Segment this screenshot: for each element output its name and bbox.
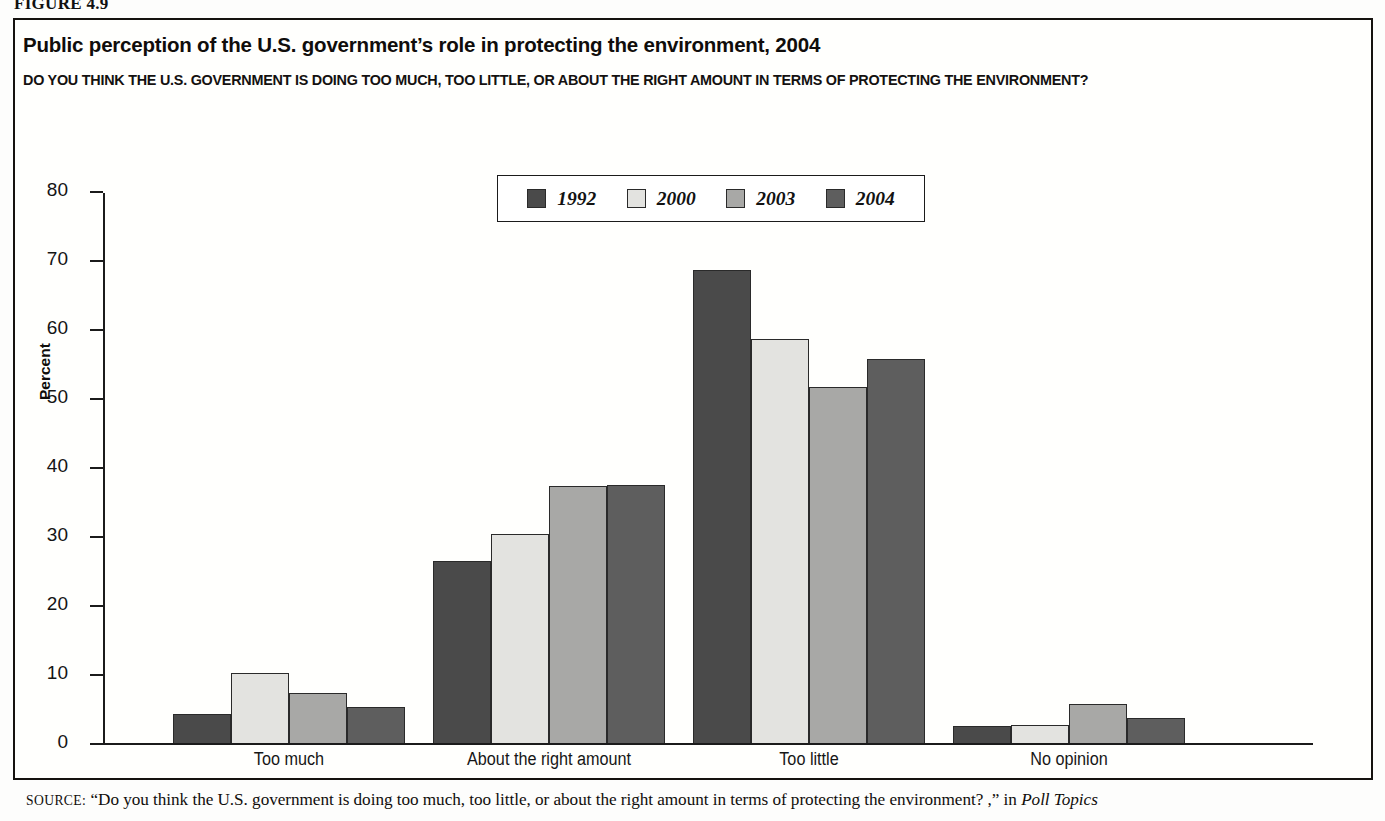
y-tick-label-40: 40	[47, 455, 68, 477]
chart-subtitle: DO YOU THINK THE U.S. GOVERNMENT IS DOIN…	[23, 72, 1088, 88]
bar-2003-no-opinion	[1069, 704, 1127, 743]
bar-1992-about-the-right-amount	[433, 561, 491, 743]
source-label: SOURCE:	[26, 793, 86, 808]
y-tick-0: 0	[90, 743, 103, 745]
legend-label-1992: 1992	[557, 188, 596, 210]
legend-item-2004[interactable]: 2004	[826, 188, 895, 210]
legend-swatch-icon-2003	[726, 189, 745, 208]
legend-label-2004: 2004	[856, 188, 895, 210]
page-title: Public perception of the U.S. government…	[23, 33, 820, 57]
y-tick-label-70: 70	[47, 248, 68, 270]
legend-label-2003: 2003	[756, 188, 795, 210]
y-tick-label-60: 60	[47, 317, 68, 339]
bar-2003-too-much	[289, 693, 347, 743]
legend-swatch-icon-1992	[527, 189, 546, 208]
bar-group	[433, 191, 665, 743]
bar-group	[953, 191, 1185, 743]
bar-2004-about-the-right-amount	[607, 485, 665, 743]
bar-1992-no-opinion	[953, 726, 1011, 743]
y-tick-30: 30	[90, 536, 103, 538]
bar-2000-too-much	[231, 673, 289, 743]
bar-2004-too-much	[347, 707, 405, 743]
bar-2000-about-the-right-amount	[491, 534, 549, 743]
legend-item-1992[interactable]: 1992	[527, 188, 596, 210]
y-tick-40: 40	[90, 467, 103, 469]
legend-swatch-icon-2000	[627, 189, 646, 208]
bar-2003-about-the-right-amount	[549, 486, 607, 743]
plot-area: 01020304050607080 Too muchAbout the righ…	[103, 193, 1313, 745]
bar-1992-too-much	[173, 714, 231, 743]
bar-group	[173, 191, 405, 743]
source-publication: Poll Topics	[1021, 790, 1098, 809]
y-tick-70: 70	[90, 260, 103, 262]
bar-1992-too-little	[693, 270, 751, 743]
bar-2000-no-opinion	[1011, 725, 1069, 743]
x-label-no-opinion: No opinion	[911, 749, 1228, 770]
source-note: SOURCE: “Do you think the U.S. governmen…	[26, 790, 1366, 810]
bar-group	[693, 191, 925, 743]
bar-2000-too-little	[751, 339, 809, 743]
y-tick-label-20: 20	[47, 593, 68, 615]
source-text: “Do you think the U.S. government is doi…	[90, 790, 1016, 809]
y-tick-60: 60	[90, 329, 103, 331]
y-tick-label-0: 0	[57, 731, 68, 753]
y-tick-80: 80	[90, 191, 103, 193]
y-tick-label-50: 50	[47, 386, 68, 408]
figure-number-label: FIGURE 4.9	[14, 0, 109, 14]
y-tick-20: 20	[90, 605, 103, 607]
y-tick-50: 50	[90, 398, 103, 400]
y-tick-label-80: 80	[47, 179, 68, 201]
legend-item-2003[interactable]: 2003	[726, 188, 795, 210]
figure-page: FIGURE 4.9 Public perception of the U.S.…	[0, 0, 1385, 821]
bar-2004-too-little	[867, 359, 925, 743]
bar-2003-too-little	[809, 387, 867, 743]
y-axis-line	[103, 193, 105, 745]
y-tick-label-30: 30	[47, 524, 68, 546]
y-tick-10: 10	[90, 674, 103, 676]
bar-2004-no-opinion	[1127, 718, 1185, 743]
legend-label-2000: 2000	[657, 188, 696, 210]
y-tick-label-10: 10	[47, 662, 68, 684]
legend-item-2000[interactable]: 2000	[627, 188, 696, 210]
chart-legend: 1992200020032004	[497, 175, 925, 222]
x-axis-line	[103, 743, 1313, 745]
legend-swatch-icon-2004	[826, 189, 845, 208]
